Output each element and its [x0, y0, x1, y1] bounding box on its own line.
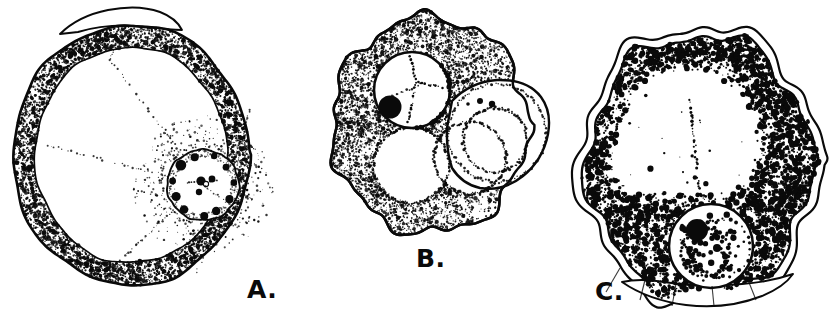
panel-label-a: A.: [247, 277, 277, 302]
cell-illustration: [0, 0, 839, 329]
panel-label-b: B.: [416, 246, 446, 271]
figure-container: A. B. C.: [0, 0, 839, 329]
panel-label-c: C.: [595, 279, 624, 304]
